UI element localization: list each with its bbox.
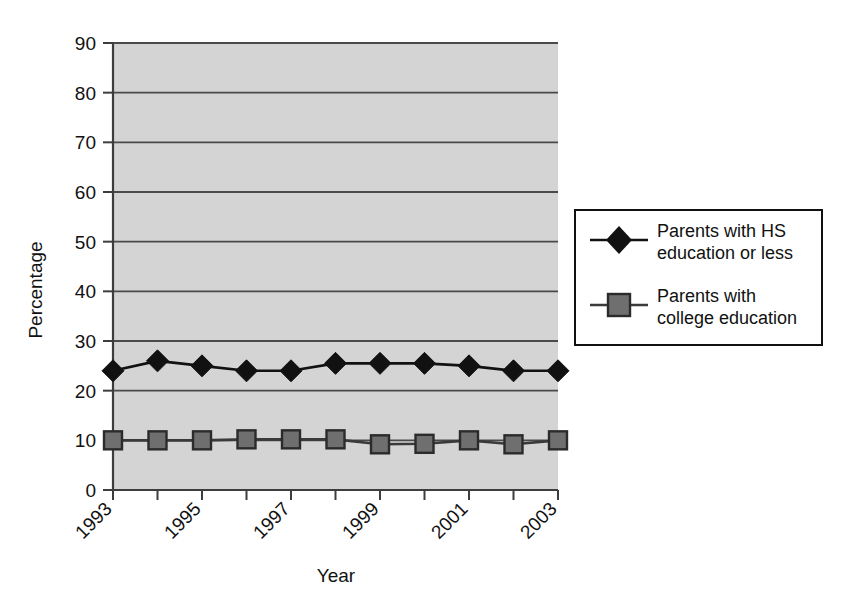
y-axis-title: Percentage [25,241,46,338]
y-axis-tick-label: 40 [75,281,96,302]
line-chart: 0102030405060708090 19931995199719992001… [0,0,858,614]
y-axis-tick-label: 80 [75,83,96,104]
legend-label-college-line1: Parents with [657,286,756,306]
y-axis-tick-label: 30 [75,331,96,352]
y-axis-tick-label: 20 [75,381,96,402]
square-data-point [416,435,434,453]
x-axis-title: Year [317,565,356,586]
square-data-point [238,430,256,448]
x-axis-tick-label: 2001 [427,498,472,543]
x-axis-tick-label: 1997 [249,498,294,543]
x-axis-tick-label: 1999 [338,498,383,543]
square-data-point [104,431,122,449]
y-axis-tick-label: 50 [75,232,96,253]
y-axis-tick-label: 10 [75,430,96,451]
x-axis-ticks [113,490,558,500]
legend-label-college-line2: college education [657,308,797,328]
legend-label-hs-line1: Parents with HS [657,221,786,241]
y-axis-tick-label: 90 [75,33,96,54]
legend: Parents with HS education or less Parent… [575,210,822,345]
square-data-point [149,431,167,449]
square-data-point [549,431,567,449]
square-data-point [371,435,389,453]
x-axis-tick-label: 1993 [71,498,116,543]
y-axis-tick-label: 0 [85,480,96,501]
square-marker-icon [608,294,630,316]
square-data-point [505,435,523,453]
square-data-point [193,431,211,449]
square-data-point [327,430,345,448]
y-axis-tick-label: 60 [75,182,96,203]
x-axis-tick-label: 2003 [516,498,561,543]
legend-label-hs-line2: education or less [657,243,793,263]
x-axis-labels: 199319951997199920012003 [71,498,561,543]
chart-container: 0102030405060708090 19931995199719992001… [0,0,858,614]
x-axis-tick-label: 1995 [160,498,205,543]
plot-area-background [113,43,558,490]
square-data-point [282,430,300,448]
y-axis-tick-label: 70 [75,132,96,153]
square-data-point [460,431,478,449]
